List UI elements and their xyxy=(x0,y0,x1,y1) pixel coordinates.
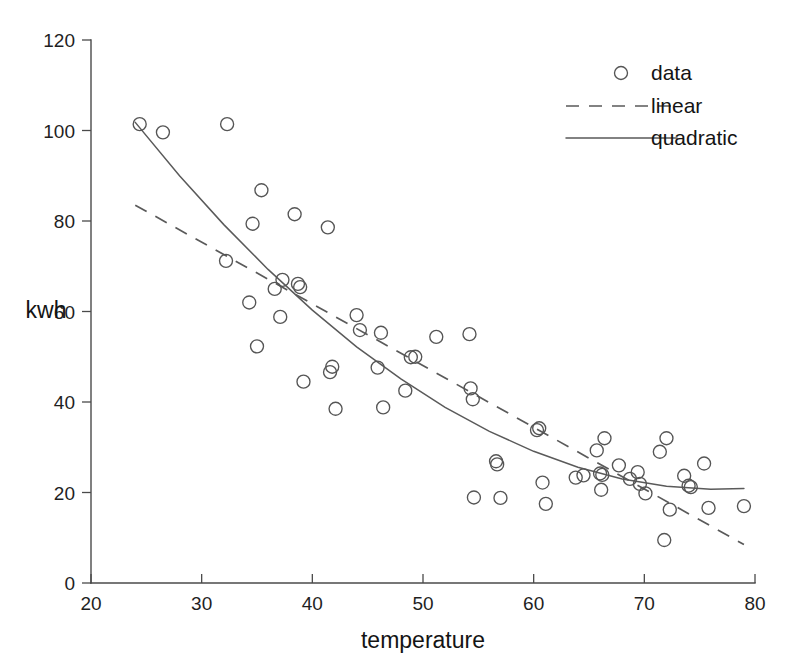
linear-fit-path xyxy=(135,205,744,544)
data-point-marker xyxy=(399,384,412,397)
legend-entry-data: data xyxy=(615,61,693,84)
data-point-marker xyxy=(288,208,301,221)
data-point-marker xyxy=(294,281,307,294)
chart-figure: 020406080100120 20304050607080 temperatu… xyxy=(0,0,801,670)
data-point-marker xyxy=(350,309,363,322)
legend-label-quadratic: quadratic xyxy=(651,126,737,149)
data-point-marker xyxy=(255,184,268,197)
data-point-marker xyxy=(467,491,480,504)
y-tick-label: 120 xyxy=(43,30,75,51)
data-point-marker xyxy=(371,361,384,374)
legend-label-linear: linear xyxy=(651,94,702,117)
x-tick-label: 70 xyxy=(634,593,655,614)
legend-entry-linear: linear xyxy=(566,94,702,117)
quadratic-fit-path xyxy=(135,122,744,489)
y-tick-label: 40 xyxy=(54,392,75,413)
data-point-marker xyxy=(276,273,289,286)
data-point-marker xyxy=(274,310,287,323)
y-axis-title: kwh xyxy=(26,297,67,323)
data-point-marker xyxy=(577,469,590,482)
x-tick-label: 60 xyxy=(523,593,544,614)
data-point-marker xyxy=(737,500,750,513)
y-tick-label: 80 xyxy=(54,211,75,232)
x-axis-title: temperature xyxy=(361,627,485,653)
data-point-marker xyxy=(658,534,671,547)
data-point-marker xyxy=(702,501,715,514)
data-point-marker xyxy=(297,375,310,388)
data-point-marker xyxy=(631,466,644,479)
axes xyxy=(91,40,755,583)
legend-open-circle-icon xyxy=(615,67,628,80)
data-point-marker xyxy=(156,126,169,139)
y-tick-label: 0 xyxy=(64,573,75,594)
scatter-plot-canvas: 020406080100120 20304050607080 temperatu… xyxy=(0,0,801,670)
data-point-marker xyxy=(660,432,673,445)
data-point-marker xyxy=(430,330,443,343)
legend-label-data: data xyxy=(651,61,692,84)
x-tick-label: 20 xyxy=(80,593,101,614)
x-tick-label: 40 xyxy=(302,593,323,614)
data-point-marker xyxy=(539,497,552,510)
data-point-marker xyxy=(663,503,676,516)
data-point-marker xyxy=(612,459,625,472)
data-point-marker xyxy=(536,476,549,489)
data-point-marker xyxy=(633,477,646,490)
data-point-marker xyxy=(377,401,390,414)
x-tick-label: 80 xyxy=(744,593,765,614)
linear-fit-line xyxy=(135,205,744,544)
data-point-marker xyxy=(374,326,387,339)
data-point-marker xyxy=(268,282,281,295)
data-point-marker xyxy=(698,457,711,470)
data-point-marker xyxy=(246,217,259,230)
data-point-series xyxy=(133,118,750,547)
data-point-marker xyxy=(221,118,234,131)
data-point-marker xyxy=(463,328,476,341)
y-tick-label: 20 xyxy=(54,483,75,504)
legend: data linear quadratic xyxy=(566,61,737,149)
data-point-marker xyxy=(329,402,342,415)
x-tick-label: 50 xyxy=(412,593,433,614)
data-point-marker xyxy=(595,483,608,496)
data-point-marker xyxy=(251,340,264,353)
data-point-marker xyxy=(321,221,334,234)
quadratic-fit-curve xyxy=(135,122,744,489)
data-point-marker xyxy=(569,471,582,484)
y-tick-label: 100 xyxy=(43,121,75,142)
x-axis-ticks: 20304050607080 xyxy=(80,574,765,614)
legend-entry-quadratic: quadratic xyxy=(566,126,737,149)
data-point-marker xyxy=(590,444,603,457)
x-tick-label: 30 xyxy=(191,593,212,614)
data-point-marker xyxy=(243,296,256,309)
data-point-marker xyxy=(494,491,507,504)
data-point-marker xyxy=(598,432,611,445)
data-point-marker xyxy=(653,445,666,458)
